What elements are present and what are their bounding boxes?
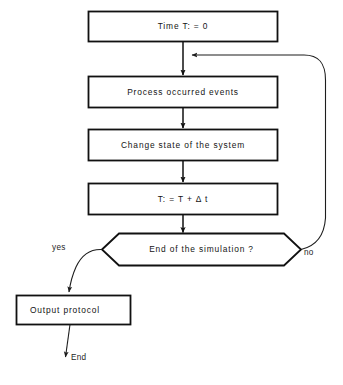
node-label-decision: End of the simulation ? bbox=[119, 245, 284, 253]
connector-output-to-end bbox=[66, 325, 71, 358]
flowchart-canvas bbox=[0, 0, 343, 385]
edge-label-end: End bbox=[71, 354, 86, 362]
edge-label-yes: yes bbox=[52, 244, 66, 252]
connector-yes-to-output bbox=[69, 249, 102, 292]
edge-label-no: no bbox=[304, 249, 314, 257]
flowchart-figure: Time T: = 0 Process occurred events Chan… bbox=[0, 0, 343, 385]
node-label-init: Time T: = 0 bbox=[88, 22, 278, 30]
node-label-advance-time: T: = T + Δ t bbox=[88, 195, 278, 203]
node-label-change-state: Change state of the system bbox=[88, 141, 278, 149]
node-label-process-events: Process occurred events bbox=[88, 88, 278, 96]
node-label-output: Output protocol bbox=[16, 306, 131, 314]
